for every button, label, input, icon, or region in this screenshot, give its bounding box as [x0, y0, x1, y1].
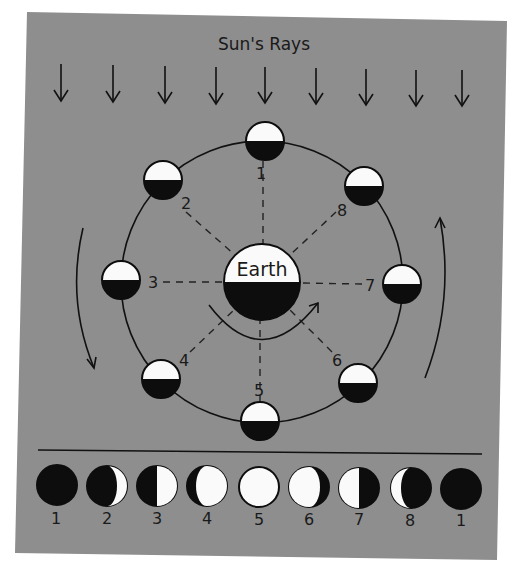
- orbit-label-1: 1: [256, 164, 266, 183]
- phase-icon-new-moon: [37, 465, 77, 505]
- phase-icon-last-quarter: [339, 468, 379, 508]
- phase-label: 2: [102, 509, 112, 528]
- phase-icon-first-quarter: [137, 466, 177, 506]
- phase-label: 3: [152, 509, 162, 528]
- orbit-moon-6: [339, 364, 377, 402]
- suns-rays-title: Sun's Rays: [218, 34, 310, 54]
- phase-icon-waxing-gibbous: [187, 466, 227, 506]
- phase-label: 1: [456, 511, 466, 530]
- phase-label: 5: [254, 510, 264, 529]
- phase-label: 6: [304, 510, 314, 529]
- phase-row: [37, 465, 481, 509]
- phase-icon-waning-gibbous: [289, 467, 329, 507]
- phase-icon-new-moon: [441, 469, 481, 509]
- orbit-moon-5: [241, 402, 279, 440]
- orbit-moon-3: [102, 261, 140, 299]
- orbit-label-2: 2: [181, 194, 191, 213]
- orbit-label-5: 5: [254, 381, 264, 400]
- earth-label: Earth: [237, 258, 288, 280]
- orbit-label-3: 3: [148, 273, 158, 292]
- earth: Earth: [224, 244, 300, 320]
- phase-label: 4: [202, 509, 212, 528]
- phase-label: 7: [354, 510, 364, 529]
- phase-icon-waning-crescent: [391, 468, 431, 508]
- orbit-label-6: 6: [332, 351, 342, 370]
- orbit-moon-2: [144, 161, 182, 199]
- phase-label: 8: [405, 511, 415, 530]
- orbit-label-7: 7: [365, 276, 375, 295]
- phase-icon-waxing-crescent: [87, 466, 127, 506]
- orbit-label-8: 8: [337, 201, 347, 220]
- phase-label: 1: [51, 509, 61, 528]
- orbit-moon-4: [142, 360, 180, 398]
- orbit-moon-8: [345, 167, 383, 205]
- orbit-moon-1: [246, 122, 284, 160]
- phase-icon-full-moon: [239, 467, 279, 507]
- orbit-label-4: 4: [179, 351, 189, 370]
- orbit-moon-7: [383, 265, 421, 303]
- moon-phases-diagram: Sun's Rays Earth: [0, 0, 518, 576]
